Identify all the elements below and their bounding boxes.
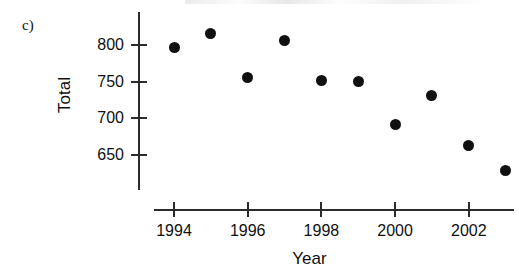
x-axis-tick-label: 1996 [218, 223, 278, 239]
x-axis-tick [468, 202, 470, 217]
x-axis-tick-label: 2000 [365, 223, 425, 239]
x-axis-tick-label: 1994 [144, 223, 204, 239]
data-point [390, 119, 401, 130]
panel-label: c) [22, 18, 34, 33]
y-axis-title: Total [56, 77, 73, 113]
y-axis-tick-label: 750 [82, 74, 124, 90]
data-point [463, 140, 474, 151]
y-axis-tick-label: 650 [82, 147, 124, 163]
y-axis-line [138, 12, 140, 190]
x-axis-tick-label: 2002 [439, 223, 499, 239]
data-point [316, 75, 327, 86]
y-axis-tick-label: 700 [82, 110, 124, 126]
x-axis-tick [247, 202, 249, 217]
y-axis-tick [131, 44, 147, 46]
y-axis-tick [131, 154, 147, 156]
data-point [242, 72, 253, 83]
x-axis-tick [173, 202, 175, 217]
x-axis-tick [320, 202, 322, 217]
data-point [279, 35, 290, 46]
y-axis-tick [131, 81, 147, 83]
data-point [353, 76, 364, 87]
y-axis-tick-label: 800 [82, 37, 124, 53]
x-axis-line [154, 209, 514, 211]
x-axis-tick [394, 202, 396, 217]
y-axis-title-wrap: Total [52, 60, 76, 130]
scan-artifact [185, 0, 485, 4]
x-axis-title: Year [0, 250, 519, 267]
x-axis-tick-label: 1998 [291, 223, 351, 239]
data-point [169, 42, 180, 53]
data-point [500, 165, 511, 176]
data-point [426, 90, 437, 101]
scatter-chart-figure: c) 650700750800 Total 199419961998200020… [0, 0, 519, 278]
data-point [205, 28, 216, 39]
y-axis-tick [131, 117, 147, 119]
